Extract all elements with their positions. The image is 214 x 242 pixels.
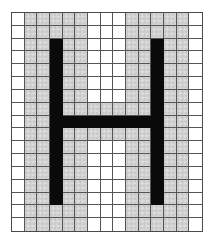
grid-cell-shaded: [177, 64, 190, 77]
grid-cell-empty: [101, 64, 114, 77]
grid-cell-shaded: [139, 167, 152, 180]
grid-cell-shaded: [75, 103, 88, 116]
grid-cell-empty: [12, 90, 25, 103]
grid-cell-empty: [113, 193, 126, 206]
grid-cell-shaded: [25, 167, 38, 180]
grid-cell-shaded: [50, 13, 63, 26]
grid-cell-shaded: [37, 39, 50, 52]
grid-cell-shaded: [177, 116, 190, 129]
grid-cell-shaded: [37, 51, 50, 64]
grid-cell-shaded: [126, 128, 139, 141]
grid-cell-shaded: [75, 193, 88, 206]
grid-cell-empty: [12, 77, 25, 90]
grid-cell-shaded: [177, 103, 190, 116]
grid-cell-shaded: [126, 205, 139, 218]
grid-cell-letter-stroke: [126, 116, 139, 129]
grid-cell-shaded: [126, 167, 139, 180]
grid-cell-letter-stroke: [113, 116, 126, 129]
grid-cell-shaded: [25, 180, 38, 193]
grid-cell-letter-stroke: [50, 193, 63, 206]
grid-cell-empty: [189, 193, 202, 206]
grid-cell-shaded: [177, 128, 190, 141]
grid-cell-empty: [101, 77, 114, 90]
grid-cell-shaded: [37, 218, 50, 231]
grid-cell-shaded: [164, 167, 177, 180]
grid-cell-empty: [189, 90, 202, 103]
grid-cell-shaded: [113, 103, 126, 116]
grid-cell-empty: [12, 103, 25, 116]
grid-cell-empty: [113, 154, 126, 167]
grid-cell-shaded: [25, 141, 38, 154]
grid-cell-empty: [12, 154, 25, 167]
grid-cell-empty: [113, 90, 126, 103]
grid-cell-shaded: [126, 103, 139, 116]
grid-cell-shaded: [177, 39, 190, 52]
grid-cell-shaded: [63, 205, 76, 218]
grid-cell-empty: [88, 51, 101, 64]
grid-cell-empty: [88, 167, 101, 180]
grid-cell-shaded: [75, 13, 88, 26]
grid-cell-empty: [12, 205, 25, 218]
grid-cell-shaded: [151, 26, 164, 39]
grid-cell-empty: [12, 116, 25, 129]
grid-cell-empty: [101, 218, 114, 231]
grid-cell-shaded: [75, 141, 88, 154]
grid-cell-shaded: [25, 64, 38, 77]
grid-cell-shaded: [139, 64, 152, 77]
grid-cell-empty: [12, 218, 25, 231]
grid-cell-shaded: [75, 26, 88, 39]
grid-cell-shaded: [177, 90, 190, 103]
grid-cell-empty: [101, 51, 114, 64]
grid-cell-empty: [189, 103, 202, 116]
grid-cell-shaded: [164, 205, 177, 218]
grid-cell-letter-stroke: [151, 51, 164, 64]
grid-cell-letter-stroke: [88, 116, 101, 129]
grid-cell-shaded: [75, 205, 88, 218]
grid-cell-shaded: [37, 90, 50, 103]
grid-cell-shaded: [75, 90, 88, 103]
grid-cell-shaded: [75, 64, 88, 77]
grid-cell-empty: [88, 26, 101, 39]
grid-cell-empty: [88, 64, 101, 77]
grid-cell-shaded: [37, 116, 50, 129]
grid-cell-shaded: [139, 205, 152, 218]
grid-cell-shaded: [63, 154, 76, 167]
grid-cell-empty: [101, 180, 114, 193]
grid-cell-shaded: [75, 218, 88, 231]
grid-cell-empty: [189, 154, 202, 167]
grid-cell-letter-stroke: [50, 154, 63, 167]
grid-cell-empty: [113, 141, 126, 154]
grid-cell-shaded: [25, 205, 38, 218]
grid-cell-empty: [101, 193, 114, 206]
grid-cell-shaded: [139, 51, 152, 64]
grid-cell-empty: [189, 218, 202, 231]
grid-cell-letter-stroke: [151, 180, 164, 193]
grid-cell-shaded: [37, 64, 50, 77]
grid-cell-shaded: [25, 116, 38, 129]
grid-cell-shaded: [164, 64, 177, 77]
grid-cell-shaded: [25, 128, 38, 141]
grid-cell-shaded: [164, 116, 177, 129]
grid-cell-shaded: [126, 77, 139, 90]
grid-cell-shaded: [164, 90, 177, 103]
grid-cell-shaded: [139, 77, 152, 90]
grid-cell-shaded: [25, 39, 38, 52]
grid-cell-empty: [189, 205, 202, 218]
grid-cell-shaded: [126, 154, 139, 167]
grid-cell-shaded: [177, 218, 190, 231]
grid-cell-empty: [113, 64, 126, 77]
grid-cell-empty: [12, 39, 25, 52]
grid-cell-empty: [88, 13, 101, 26]
grid-cell-empty: [189, 180, 202, 193]
grid-cell-empty: [88, 90, 101, 103]
grid-cell-letter-stroke: [151, 103, 164, 116]
grid-cell-shaded: [139, 128, 152, 141]
grid-cell-shaded: [126, 141, 139, 154]
grid-cell-shaded: [50, 26, 63, 39]
grid-cell-shaded: [63, 128, 76, 141]
grid-cell-shaded: [151, 13, 164, 26]
grid-cell-empty: [88, 193, 101, 206]
grid-cell-shaded: [139, 13, 152, 26]
grid-cell-shaded: [164, 141, 177, 154]
grid-cell-empty: [189, 128, 202, 141]
